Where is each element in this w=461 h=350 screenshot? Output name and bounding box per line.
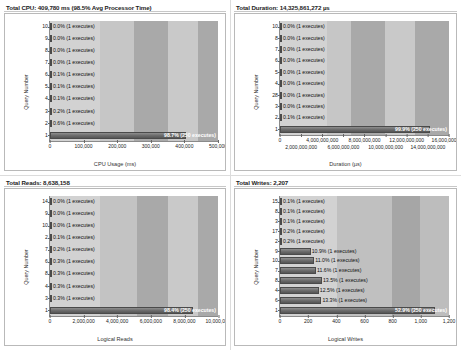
bar[interactable] <box>50 108 52 115</box>
bar-row[interactable]: 60.1% (1 executes) <box>50 70 218 80</box>
bar-row[interactable]: 910.9% (1 executes) <box>280 246 449 256</box>
bar-row[interactable]: 813.5% (1 executes) <box>280 276 449 286</box>
bar-row[interactable]: 20.1% (1 executes) <box>280 113 449 123</box>
bar-row[interactable]: 40.1% (1 executes) <box>50 94 218 104</box>
bar[interactable] <box>280 297 321 304</box>
bar-row[interactable]: 198.7% (250 executes) <box>50 130 218 140</box>
bar[interactable] <box>50 258 52 265</box>
bar-row[interactable]: 70.0% (1 executes) <box>50 58 218 68</box>
x-tick-label: 300,000 <box>142 143 160 149</box>
bar[interactable] <box>50 23 52 30</box>
bar-row[interactable]: 90.0% (1 executes) <box>50 34 218 44</box>
bar[interactable] <box>50 295 52 302</box>
bar[interactable] <box>50 270 52 277</box>
bar[interactable] <box>50 83 52 90</box>
bar-row[interactable]: 100.0% (1 executes) <box>50 22 218 32</box>
bar-row[interactable]: 100.0% (1 executes) <box>50 221 218 231</box>
x-tick-label: 12,000,000,000 <box>389 137 424 143</box>
bar[interactable] <box>280 267 316 274</box>
bar[interactable] <box>50 95 52 102</box>
bar-row[interactable]: 412.5% (1 executes) <box>280 286 449 296</box>
bar[interactable] <box>280 103 282 110</box>
bar[interactable] <box>280 228 282 235</box>
bar[interactable] <box>280 35 282 42</box>
bar-row[interactable]: 30.1% (1 executes) <box>280 217 449 227</box>
panel-total-reads: Total Reads: 8,638,158 Query Number 140.… <box>0 175 230 350</box>
x-axis-ticks-reads: 02,000,0004,000,0006,000,0008,000,00010,… <box>50 316 218 338</box>
bar[interactable] <box>50 120 52 127</box>
bar-row[interactable]: 152.9% (250 executes) <box>280 305 449 315</box>
bar-row[interactable]: 60.0% (1 executes) <box>280 56 449 66</box>
bar-row[interactable]: 613.3% (1 executes) <box>280 295 449 305</box>
bar-row[interactable]: 198.4% (250 executes) <box>50 305 218 315</box>
y-tick-label: 3 <box>45 108 48 115</box>
bar[interactable] <box>280 46 282 53</box>
bar-row[interactable]: 150.1% (1 executes) <box>280 197 449 207</box>
bar-row[interactable]: 199.9% (250 executes) <box>280 124 449 134</box>
bar[interactable] <box>50 198 52 205</box>
bar[interactable] <box>280 277 322 284</box>
bar-row[interactable]: 170.2% (1 executes) <box>280 227 449 237</box>
bar-row[interactable]: 30.2% (1 executes) <box>50 106 218 116</box>
y-tick-label: 8 <box>45 270 48 277</box>
x-tick-label: 100,000 <box>75 143 93 149</box>
bar[interactable] <box>280 257 314 264</box>
bar-value-label: 0.2% (1 executes) <box>53 246 95 253</box>
bar-value-label: 0.0% (1 executes) <box>53 35 95 42</box>
bar-row[interactable]: 140.0% (1 executes) <box>50 197 218 207</box>
bar-row[interactable]: 30.0% (1 executes) <box>280 102 449 112</box>
bar[interactable] <box>280 208 282 215</box>
bar-row[interactable]: 1011.0% (1 executes) <box>280 256 449 266</box>
bar[interactable] <box>280 23 282 30</box>
bar[interactable] <box>50 222 52 229</box>
bar-row[interactable]: 20.2% (1 executes) <box>280 236 449 246</box>
bar[interactable] <box>280 248 311 255</box>
y-tick-label: 4 <box>275 287 278 294</box>
bar[interactable] <box>50 210 52 217</box>
title-rule <box>234 11 457 12</box>
x-tick-label: 16,000,000,000 <box>432 137 457 143</box>
bar-row[interactable]: 70.2% (1 executes) <box>50 245 218 255</box>
bar-value-label: 98.4% (250 executes) <box>164 307 216 314</box>
bar[interactable] <box>280 114 282 121</box>
bar[interactable] <box>50 59 52 66</box>
bar[interactable] <box>280 287 319 294</box>
bar[interactable] <box>280 238 282 245</box>
y-tick-label: 1 <box>45 307 48 314</box>
bar[interactable] <box>50 246 52 253</box>
bar-row[interactable]: 80.3% (1 executes) <box>50 269 218 279</box>
bar-row[interactable]: 20.6% (1 executes) <box>50 118 218 128</box>
bar-value-label: 0.2% (1 executes) <box>53 108 95 115</box>
bar-row[interactable]: 280.0% (1 executes) <box>280 90 449 100</box>
bar[interactable] <box>280 57 282 64</box>
title-rule <box>4 186 226 187</box>
bar-row[interactable]: 60.3% (1 executes) <box>50 257 218 267</box>
bar-row[interactable]: 20.1% (1 executes) <box>50 233 218 243</box>
bar-row[interactable]: 50.0% (1 executes) <box>280 68 449 78</box>
bar-row[interactable]: 711.6% (1 executes) <box>280 266 449 276</box>
bar[interactable] <box>50 71 52 78</box>
bar[interactable] <box>280 92 282 99</box>
bar-row[interactable]: 80.1% (1 executes) <box>280 207 449 217</box>
bar-row[interactable]: 40.0% (1 executes) <box>280 79 449 89</box>
bar-row[interactable]: 100.0% (1 executes) <box>280 22 449 32</box>
bar-value-label: 0.2% (1 executes) <box>283 238 325 245</box>
bar-row[interactable]: 50.1% (1 executes) <box>50 82 218 92</box>
bar[interactable] <box>280 198 282 205</box>
bar[interactable] <box>280 218 282 225</box>
x-tick-label: 10,000,000 <box>205 318 226 324</box>
bar[interactable] <box>50 234 52 241</box>
y-tick-label: 7 <box>275 46 278 53</box>
bar-row[interactable]: 30.3% (1 executes) <box>50 293 218 303</box>
bar-row[interactable]: 90.0% (1 executes) <box>50 209 218 219</box>
bar-row[interactable]: 80.0% (1 executes) <box>280 33 449 43</box>
bar[interactable] <box>50 47 52 54</box>
bar[interactable] <box>50 35 52 42</box>
bar-row[interactable]: 80.0% (1 executes) <box>50 46 218 56</box>
bar-row[interactable]: 70.0% (1 executes) <box>280 45 449 55</box>
bar-row[interactable]: 40.3% (1 executes) <box>50 281 218 291</box>
bar[interactable] <box>280 69 282 76</box>
y-tick-label: 7 <box>45 59 48 66</box>
bar[interactable] <box>280 80 282 87</box>
bar[interactable] <box>50 283 52 290</box>
